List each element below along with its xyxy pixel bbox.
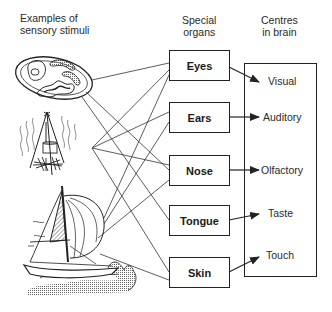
centre-label-taste: Taste — [268, 207, 293, 219]
centre-label-visual: Visual — [268, 75, 296, 87]
organ-box-tongue: Tongue — [169, 205, 230, 236]
sailboat-illustration — [24, 186, 136, 296]
organ-label-eyes: Eyes — [187, 60, 213, 72]
organ-label-tongue: Tongue — [180, 215, 219, 227]
organ-label-skin: Skin — [188, 267, 211, 279]
organ-box-ears: Ears — [169, 102, 230, 133]
food-plate-illustration — [12, 50, 97, 105]
centre-label-touch: Touch — [266, 249, 294, 261]
organ-box-nose: Nose — [169, 155, 230, 186]
organ-box-skin: Skin — [169, 257, 230, 288]
campfire-illustration — [20, 112, 76, 175]
organ-label-nose: Nose — [186, 165, 213, 177]
organ-box-eyes: Eyes — [169, 50, 230, 81]
centre-label-auditory: Auditory — [263, 111, 302, 123]
stimulus-organ-connectors — [82, 63, 169, 280]
organ-label-ears: Ears — [188, 112, 212, 124]
centre-label-olfactory: Olfactory — [261, 164, 303, 176]
